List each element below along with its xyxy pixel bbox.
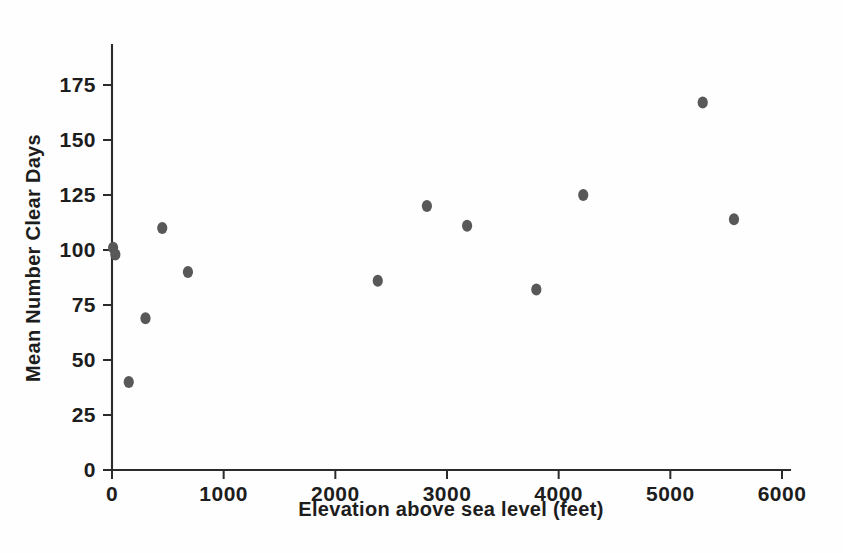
y-tick-label: 125 xyxy=(59,183,96,206)
y-tick-label: 100 xyxy=(59,238,96,261)
x-tick-label: 5000 xyxy=(646,482,695,505)
y-tick-label: 0 xyxy=(84,458,96,481)
y-tick-label: 25 xyxy=(72,403,96,426)
y-tick-label: 50 xyxy=(72,348,96,371)
y-tick-label: 175 xyxy=(59,73,96,96)
y-tick-label: 75 xyxy=(72,293,96,316)
data-point xyxy=(698,97,708,109)
x-axis-title: Elevation above sea level (feet) xyxy=(298,498,603,520)
data-point xyxy=(729,213,739,225)
data-point xyxy=(110,248,120,260)
data-point xyxy=(157,222,167,234)
x-tick-label: 0 xyxy=(106,482,118,505)
scatter-plot-figure: 0255075100125150175 01000200030004000500… xyxy=(0,0,843,553)
data-point xyxy=(531,284,541,296)
data-point xyxy=(462,220,472,232)
x-tick-label: 6000 xyxy=(758,482,807,505)
data-point xyxy=(124,376,134,388)
x-tick-label: 1000 xyxy=(199,482,248,505)
y-tick-label: 150 xyxy=(59,128,96,151)
data-point xyxy=(183,266,193,278)
chart-canvas: 0255075100125150175 01000200030004000500… xyxy=(0,0,843,553)
y-axis-title: Mean Number Clear Days xyxy=(22,134,44,382)
data-point xyxy=(373,275,383,287)
data-point xyxy=(140,312,150,324)
data-point xyxy=(578,189,588,201)
data-point xyxy=(422,200,432,212)
